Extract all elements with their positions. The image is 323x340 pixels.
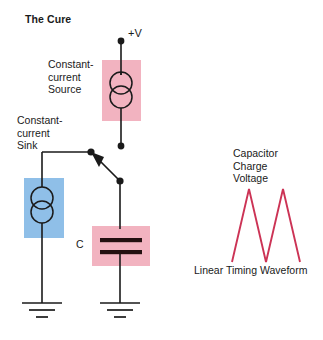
switch-pivot-node-dot [116,177,123,184]
supply-node-dot [118,38,125,45]
waveform-caption-label: Linear Timing Waveform [194,264,307,277]
ground-icon-capacitor [100,303,140,317]
switch-arrowhead [91,152,104,167]
source-output-node-dot [118,143,125,150]
circuit-diagram-figure: The Cure +V Constant- current Source Con… [0,0,323,340]
capacitor-charge-waveform [232,189,300,262]
current-source-label: Constant- current Source [48,58,94,96]
ground-icon-sink [22,303,62,317]
capacitor-highlight-box [92,226,150,266]
capacitor-label: C [76,238,84,251]
capacitor-top-plate [100,238,142,242]
current-sink-label: Constant- current Sink [17,114,63,152]
capacitor-bottom-plate [100,250,142,254]
supply-voltage-label: +V [128,27,142,40]
page-title: The Cure [25,13,71,26]
waveform-title-label: Capacitor Charge Voltage [233,147,278,185]
spdt-switch-icon[interactable] [91,152,124,185]
switch-arm [100,161,119,180]
